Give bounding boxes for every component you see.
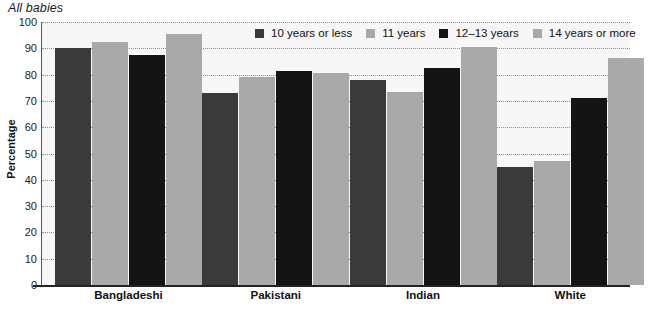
y-tick-label-50: 50: [25, 148, 37, 159]
legend-label-4: 14 years or more: [549, 28, 636, 40]
x-axis-baseline: [33, 285, 630, 287]
filled-square-icon: [366, 29, 375, 38]
bar-bangladeshi-series-2: [92, 42, 128, 285]
y-tick-label-100: 100: [19, 17, 37, 28]
legend-item-1[interactable]: 10 years or less: [255, 28, 352, 40]
legend-label-3: 12–13 years: [455, 28, 518, 40]
bar-group-indian: [350, 22, 497, 285]
y-tick-label-10: 10: [25, 253, 37, 264]
bar-pakistani-series-1: [202, 93, 238, 285]
y-axis-label: Percentage: [5, 99, 17, 199]
y-tick-label-80: 80: [25, 69, 37, 80]
y-tick-label-0: 0: [31, 280, 37, 291]
bar-bangladeshi-series-3: [129, 55, 165, 285]
bar-white-series-3: [571, 98, 607, 285]
filled-square-icon: [533, 29, 542, 38]
y-tick-label-20: 20: [25, 227, 37, 238]
y-tick-label-40: 40: [25, 174, 37, 185]
bar-bangladeshi-series-1: [55, 48, 91, 285]
bar-group-pakistani: [202, 22, 349, 285]
bar-white-series-1: [497, 167, 533, 285]
y-tick-label-60: 60: [25, 122, 37, 133]
y-tick-label-30: 30: [25, 201, 37, 212]
y-tick-label-90: 90: [25, 43, 37, 54]
bar-indian-series-1: [350, 80, 386, 285]
x-axis-labels: BangladeshiPakistaniIndianWhite: [41, 289, 630, 309]
x-axis-label-white: White: [555, 289, 586, 301]
bar-pakistani-series-2: [239, 77, 275, 285]
bar-indian-series-3: [424, 68, 460, 285]
legend-label-2: 11 years: [382, 28, 425, 40]
bars-layer: [41, 22, 630, 285]
chart-legend: 10 years or less11 years12–13 years14 ye…: [255, 28, 648, 40]
legend-label-1: 10 years or less: [271, 28, 352, 40]
bar-pakistani-series-4: [313, 73, 349, 285]
bar-group-white: [497, 22, 644, 285]
legend-item-2[interactable]: 11 years: [366, 28, 425, 40]
bar-pakistani-series-3: [276, 71, 312, 285]
bar-white-series-2: [534, 161, 570, 285]
x-axis-label-indian: Indian: [406, 289, 440, 301]
filled-square-icon: [439, 29, 448, 38]
filled-square-icon: [255, 29, 264, 38]
y-tick-label-70: 70: [25, 95, 37, 106]
bar-white-series-4: [608, 58, 644, 285]
x-axis-label-pakistani: Pakistani: [251, 289, 302, 301]
x-axis-label-bangladeshi: Bangladeshi: [94, 289, 162, 301]
legend-item-4[interactable]: 14 years or more: [533, 28, 636, 40]
bar-bangladeshi-series-4: [166, 34, 202, 285]
legend-item-3[interactable]: 12–13 years: [439, 28, 518, 40]
bar-indian-series-2: [387, 92, 423, 285]
bar-indian-series-4: [461, 47, 497, 285]
bar-group-bangladeshi: [55, 22, 202, 285]
